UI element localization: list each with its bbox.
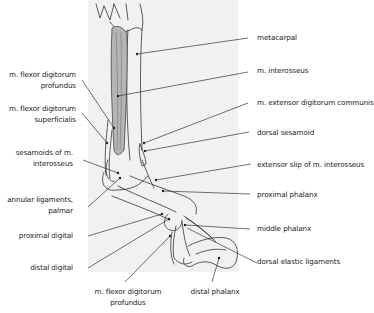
label-proximal-digital: proximal digital <box>0 230 73 241</box>
label-distal-digital: distal digital <box>0 262 73 273</box>
label-flexor-digitorum-superficialis: m. flexor digitorum superficialis <box>0 103 76 125</box>
label-annular-ligaments-palmar: annular ligaments, palmar <box>0 194 73 216</box>
label-sesamoids-of-interosseus: sesamoids of m. interosseus <box>0 147 73 169</box>
label-extensor-digitorum-communis: m. extensor digitorum communis <box>257 97 374 108</box>
label-dorsal-elastic-ligaments: dorsal elastic ligaments <box>257 256 340 267</box>
label-line: proximal digital <box>0 230 73 241</box>
label-line: sesamoids of m. <box>0 147 73 158</box>
label-proximal-phalanx: proximal phalanx <box>257 189 318 200</box>
label-extensor-slip-interosseus: extensor slip of m. interosseus <box>257 159 364 170</box>
label-metacarpal: metacarpal <box>257 32 297 43</box>
label-line: m. flexor digitorum <box>0 103 76 114</box>
muscle-shape <box>111 26 127 154</box>
label-line: superficialis <box>0 114 76 125</box>
label-distal-phalanx: distal phalanx <box>180 286 250 297</box>
label-interosseus: m. interosseus <box>257 65 308 76</box>
label-line: m. flexor digitorum <box>78 286 178 297</box>
label-flexor-digitorum-profundus: m. flexor digitorum profundus <box>0 69 76 91</box>
label-line: palmar <box>0 205 73 216</box>
label-line: distal digital <box>0 262 73 273</box>
label-dorsal-sesamoid: dorsal sesamoid <box>257 127 314 138</box>
label-middle-phalanx: middle phalanx <box>257 223 311 234</box>
label-line: interosseus <box>0 158 73 169</box>
label-flexor-digitorum-profundus-bottom: m. flexor digitorum profundus <box>78 286 178 308</box>
label-line: profundus <box>0 80 76 91</box>
label-line: profundus <box>78 297 178 308</box>
label-line: annular ligaments, <box>0 194 73 205</box>
label-line: m. flexor digitorum <box>0 69 76 80</box>
